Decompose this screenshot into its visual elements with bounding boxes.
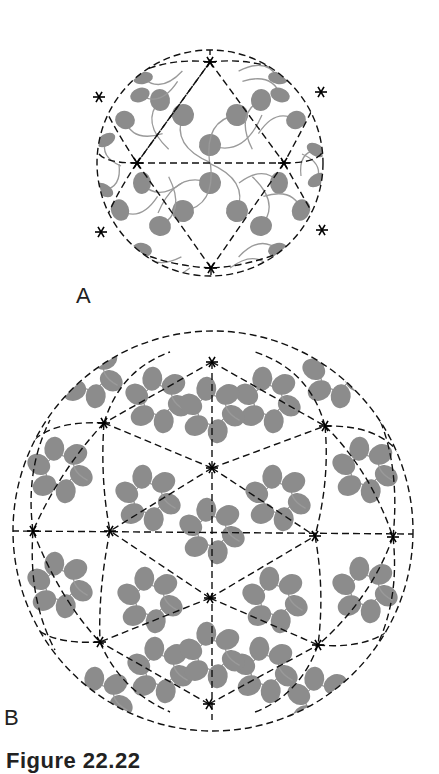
subunit-tail [77,713,105,721]
subunit-dot [289,701,319,729]
subunit-tail [297,713,325,721]
subunit-dot [275,570,305,598]
subunit-tail [72,690,86,716]
subunit-dot [108,197,132,224]
subunit-dot [128,85,152,105]
subunit-dot [53,354,84,384]
subunit-dot [148,87,172,112]
subunit-dot [207,663,229,689]
subunit-dot [195,497,217,523]
subunit-dot [365,560,395,588]
subunit-dot [289,197,313,224]
subunit-dot [145,608,167,634]
subunit-dot [207,539,229,565]
subunit-dot [140,262,160,274]
subunit-dot [60,555,90,583]
subunit-dot [129,671,159,699]
subunit-tail [62,365,76,391]
figure-caption: Figure 22.22 [6,748,140,774]
subunit-dot [85,383,107,409]
subunit-dot [305,170,328,190]
subunit-dot [334,591,364,619]
subunit-dot [222,196,252,226]
subunit-dot [248,214,273,238]
panel-label-a: A [76,283,91,309]
subunit-dot [92,180,115,200]
subunit-dot [268,85,292,105]
subunit-dot [83,666,105,692]
subunit-dot [55,478,77,504]
subunit-dot [127,401,157,429]
subunit-dot [143,506,165,532]
subunit-tail [230,259,270,268]
subunit-dot [260,262,280,274]
subunit-dot [29,586,59,614]
subunit-tail [329,354,357,362]
subunit-dot [315,708,337,734]
panel-label-b: B [4,705,19,731]
subunit-tail [69,346,85,369]
subunit-dot [143,636,165,662]
subunit-dot [198,37,222,47]
subunit-dot [150,570,180,598]
subunit-dot [195,130,225,160]
subunit-dot [181,411,211,439]
subunit-dot [212,501,242,529]
subunit-dot [100,670,130,698]
subunit-dot [168,196,198,226]
subunit-dot [251,366,273,392]
subunit-dot [195,376,217,402]
subunit-dot [265,640,295,668]
subunit-tail [325,706,341,729]
subunit-tail [105,706,121,729]
subunit-dot [212,625,242,653]
subunit-tail [180,278,210,285]
subunit-dot [270,608,292,634]
subunit-dot [249,87,273,112]
subunit-tail [210,42,240,49]
subunit-dot [320,670,350,698]
subunit-dot [330,383,352,409]
subunit-dot [270,172,288,194]
subunit-dot [261,464,283,490]
subunit-dot [247,499,277,527]
subunit-dot [155,678,177,704]
subunit-dot [348,436,370,462]
subunit-dot [119,601,149,629]
subunit-dot [284,108,309,132]
subunit-dot [95,708,117,734]
sphere-b [12,331,414,734]
subunit-dot [133,172,151,194]
subunit-dot [69,701,99,729]
subunit-dot [207,418,229,444]
subunit-dot [94,130,117,150]
subunit-dot [198,280,222,290]
subunit-dot [59,376,89,404]
subunit-dot [73,341,95,367]
subunit-dot [133,566,155,592]
sphere-a [92,37,328,292]
subunit-dot [263,408,285,434]
subunit-dot [273,506,295,532]
subunit-dot [195,621,217,647]
subunit-dot [147,214,172,238]
subunit-dot [131,464,153,490]
subunit-dot [244,601,274,629]
subunit-dot [181,532,211,560]
subunit-tail [84,354,112,362]
subunit-dot [348,556,370,582]
subunit-dot [148,468,178,496]
subunit-dot [335,345,365,373]
subunit-dot [258,566,280,592]
subunit-dot [278,468,308,496]
subunit-dot [267,70,289,85]
subunit-tail [348,359,362,385]
subunit-dot [212,380,242,408]
subunit-dot [141,366,163,392]
subunit-dot [131,241,153,258]
subunit-dot [43,436,65,462]
subunit-dot [360,598,382,624]
subunit-dot [248,636,270,662]
sphere-a-subunits [92,37,328,290]
